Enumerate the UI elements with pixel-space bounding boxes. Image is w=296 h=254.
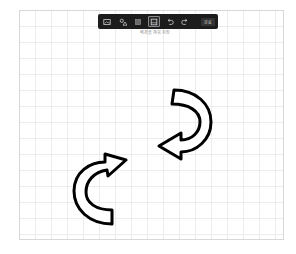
curved-arrow-right[interactable] (159, 90, 211, 159)
curved-arrow-left[interactable] (74, 154, 126, 224)
drawing-layer (0, 0, 296, 254)
